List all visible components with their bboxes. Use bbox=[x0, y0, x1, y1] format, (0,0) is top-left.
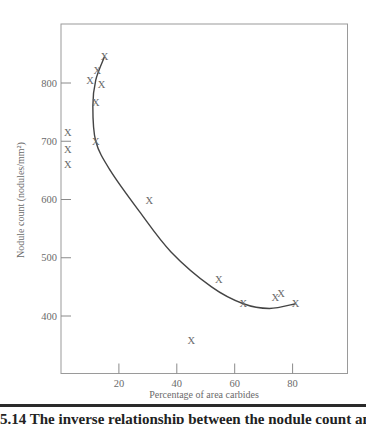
x-axis-label: Percentage of area carbides bbox=[149, 389, 259, 400]
data-point-marker: X bbox=[92, 97, 100, 108]
y-tick-label: 800 bbox=[41, 78, 57, 89]
y-axis-label: Nodule count (nodules/mm²) bbox=[15, 142, 27, 258]
data-point-marker: X bbox=[64, 127, 72, 138]
y-tick-label: 700 bbox=[41, 136, 57, 147]
data-markers: XXXXXXXXXXXXXXXX bbox=[64, 51, 300, 346]
x-tick-label: 60 bbox=[229, 378, 240, 389]
data-point-marker: X bbox=[215, 274, 223, 285]
data-point-marker: X bbox=[292, 298, 300, 309]
data-point-marker: X bbox=[93, 65, 101, 76]
data-point-marker: X bbox=[98, 79, 106, 90]
data-point-marker: X bbox=[101, 51, 109, 62]
x-axis-ticks: 20406080 bbox=[114, 364, 298, 389]
figure-caption: 5.14 The inverse relationship between th… bbox=[0, 410, 366, 424]
data-point-marker: X bbox=[277, 288, 285, 299]
data-point-marker: X bbox=[146, 195, 154, 206]
data-point-marker: X bbox=[240, 298, 248, 309]
data-point-marker: X bbox=[86, 75, 94, 86]
x-tick-label: 20 bbox=[114, 378, 125, 389]
data-point-marker: X bbox=[92, 136, 100, 147]
plot-frame bbox=[61, 24, 348, 374]
caption-divider bbox=[0, 404, 366, 407]
nodule-count-chart: 20406080 400500600700800 XXXXXXXXXXXXXXX… bbox=[0, 0, 366, 424]
data-point-marker: X bbox=[187, 335, 195, 346]
y-tick-label: 500 bbox=[41, 252, 57, 263]
x-tick-label: 80 bbox=[287, 378, 298, 389]
x-tick-label: 40 bbox=[172, 378, 183, 389]
y-tick-label: 600 bbox=[41, 194, 57, 205]
y-tick-label: 400 bbox=[41, 311, 57, 322]
fitted-curve bbox=[93, 57, 296, 309]
data-point-marker: X bbox=[64, 144, 72, 155]
y-axis-ticks: 400500600700800 bbox=[41, 78, 71, 322]
data-point-marker: X bbox=[64, 159, 72, 170]
